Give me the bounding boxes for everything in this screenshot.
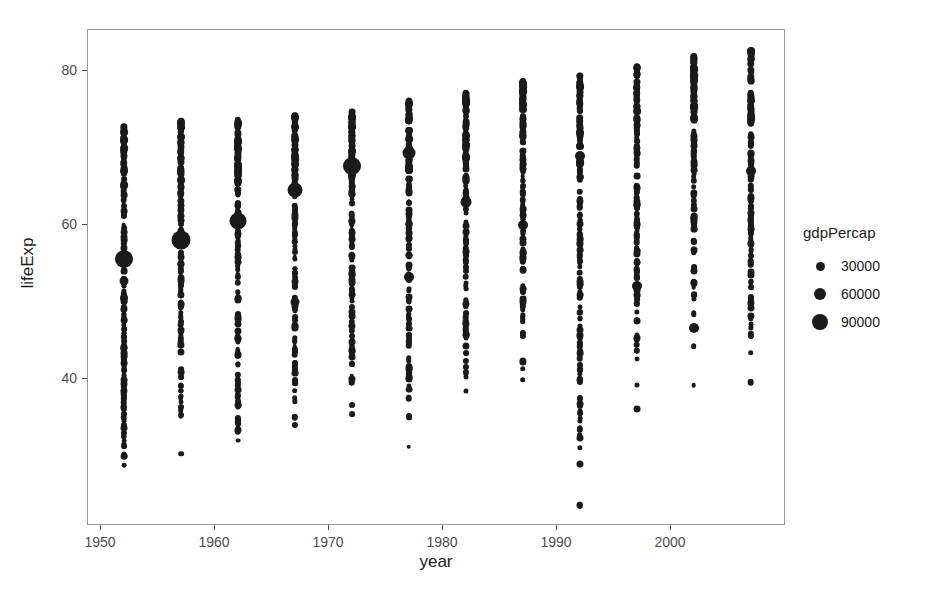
data-point — [406, 358, 412, 364]
data-point — [520, 174, 525, 179]
data-point — [235, 404, 240, 409]
y-tick-mark — [82, 378, 87, 379]
data-point — [177, 292, 184, 299]
data-point — [177, 202, 184, 209]
data-point — [519, 102, 527, 110]
data-point — [178, 328, 183, 333]
data-point — [634, 383, 639, 388]
data-point — [463, 350, 469, 356]
data-point — [691, 222, 696, 227]
data-point — [292, 414, 298, 420]
data-point — [406, 253, 411, 258]
data-point — [348, 252, 355, 259]
data-point — [406, 334, 412, 340]
legend-dot-icon — [812, 314, 828, 330]
data-point — [178, 451, 184, 457]
data-point — [234, 352, 241, 359]
data-point — [463, 286, 468, 291]
data-point — [406, 364, 412, 370]
data-points-layer — [88, 30, 784, 524]
data-point — [633, 89, 641, 97]
data-point — [577, 226, 583, 232]
data-point — [462, 108, 469, 115]
data-point — [462, 273, 469, 280]
data-point — [292, 317, 298, 323]
data-point — [690, 117, 697, 124]
data-point — [292, 422, 298, 428]
legend-label: 60000 — [837, 286, 880, 302]
x-tick-label: 1990 — [540, 534, 571, 550]
data-point — [292, 380, 298, 386]
legend-item[interactable]: 90000 — [803, 308, 931, 336]
data-point — [292, 154, 298, 160]
data-point — [292, 388, 298, 394]
data-point — [235, 201, 242, 208]
data-point — [747, 115, 755, 123]
y-tick-mark — [82, 70, 87, 71]
data-point — [349, 333, 355, 339]
y-tick-label: 80 — [39, 62, 77, 78]
y-tick-mark — [82, 224, 87, 225]
data-point — [691, 343, 697, 349]
data-point — [121, 451, 126, 456]
data-point — [463, 281, 468, 286]
data-point — [634, 160, 639, 165]
data-point — [577, 189, 583, 195]
data-point — [405, 111, 412, 118]
data-point — [406, 294, 412, 300]
data-point — [349, 350, 355, 356]
x-tick-label: 1970 — [312, 534, 343, 550]
data-point — [634, 317, 640, 323]
data-point — [576, 434, 583, 441]
data-point — [235, 362, 240, 367]
data-point — [577, 284, 583, 290]
data-point-large — [119, 277, 128, 286]
data-point — [463, 117, 469, 123]
x-tick-label: 2000 — [654, 534, 685, 550]
data-point — [235, 193, 240, 198]
data-point — [292, 371, 297, 376]
data-point — [747, 268, 754, 275]
data-point — [520, 331, 526, 337]
data-point — [577, 355, 584, 362]
data-point — [634, 224, 639, 229]
data-point — [577, 304, 582, 309]
data-point — [122, 223, 127, 228]
data-point — [178, 319, 183, 324]
data-point — [348, 211, 355, 218]
data-point — [235, 347, 240, 352]
data-point — [121, 363, 126, 368]
legend-item[interactable]: 30000 — [803, 252, 931, 280]
data-point — [178, 349, 183, 354]
data-point — [405, 189, 412, 196]
legend-item[interactable]: 60000 — [803, 280, 931, 308]
data-point — [577, 247, 583, 253]
data-point — [349, 361, 355, 367]
data-point — [634, 357, 639, 362]
legend-title: gdpPercap — [803, 224, 931, 241]
x-tick-mark — [556, 525, 557, 530]
x-tick-mark — [214, 525, 215, 530]
data-point — [178, 304, 184, 310]
data-point — [577, 83, 583, 89]
data-point — [349, 229, 355, 235]
x-tick-label: 1950 — [84, 534, 115, 550]
data-point — [577, 167, 583, 173]
data-point — [577, 259, 582, 264]
data-point — [748, 284, 754, 290]
data-point — [576, 461, 583, 468]
data-point — [405, 103, 412, 110]
data-point — [520, 155, 526, 161]
data-point — [634, 149, 640, 155]
data-point — [748, 198, 753, 203]
data-point — [462, 343, 469, 350]
data-point — [690, 247, 697, 254]
data-point — [406, 395, 413, 402]
data-point — [405, 135, 413, 143]
data-point — [406, 321, 412, 327]
legend-rows: 300006000090000 — [803, 252, 931, 336]
data-point — [748, 252, 754, 258]
data-point — [178, 165, 185, 172]
data-point — [235, 280, 241, 286]
data-point — [577, 410, 583, 416]
